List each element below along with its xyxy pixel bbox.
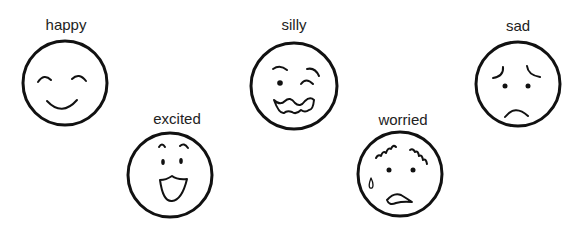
worried-right-eye — [411, 168, 416, 173]
happy-face-icon — [23, 41, 107, 125]
worried-face-icon — [358, 132, 442, 216]
excited-left-eye — [161, 159, 165, 165]
silly-face-outline — [251, 43, 337, 129]
sad-right-eye — [526, 84, 531, 89]
worried-left-eye — [387, 168, 392, 173]
excited-face-outline — [128, 133, 212, 217]
sad-face-icon — [476, 42, 560, 126]
worried-face-outline — [358, 132, 442, 216]
silly-left-eye — [277, 80, 283, 86]
excited-right-eye — [179, 158, 183, 164]
excited-face-icon — [128, 133, 212, 217]
faces-canvas — [0, 0, 579, 230]
silly-face-icon — [251, 43, 337, 129]
sad-face-outline — [476, 42, 560, 126]
happy-face-outline — [23, 41, 107, 125]
sad-left-eye — [503, 84, 508, 89]
emotion-faces-diagram: happy excited silly worried sad — [0, 0, 579, 230]
